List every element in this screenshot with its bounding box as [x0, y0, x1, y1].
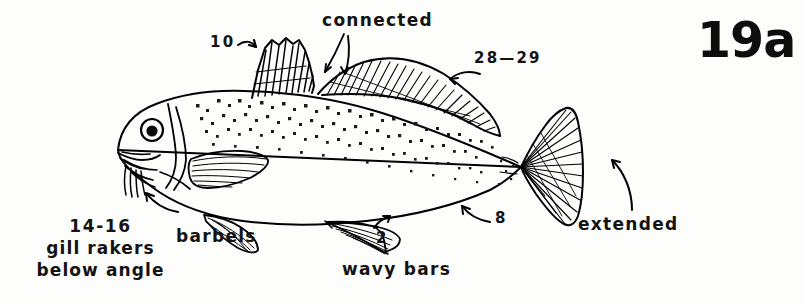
arrow-connected-to-junction — [325, 34, 349, 74]
arrow-10-to-first-dorsal — [238, 40, 256, 47]
caudal-fin — [521, 108, 583, 225]
body-speckle-wavy-bars — [196, 99, 514, 185]
figure-19a-container: connected 10 28—29 8 extended 2 wavy bar… — [0, 0, 806, 305]
label-anal-ray-count: 8 — [495, 211, 506, 227]
gill-raker-text-line-3: below angle — [28, 262, 173, 280]
label-connected: connected — [322, 12, 433, 30]
gill-cover-line — [166, 104, 186, 190]
figure-number: 19a — [697, 12, 795, 69]
arrow-2829-to-second-dorsal — [450, 72, 480, 84]
arrow-extended-to-caudal — [612, 160, 632, 210]
anal-fin — [325, 221, 400, 254]
label-first-dorsal-spine-count: 10 — [210, 35, 235, 51]
label-wavy-bars: wavy bars — [342, 261, 451, 279]
first-dorsal-fin — [252, 38, 314, 98]
label-extended: extended — [578, 216, 679, 234]
arrow-gillrakers-to-gillcover — [146, 193, 178, 212]
label-gill-rakers: 14-16 gill rakers below angle — [28, 218, 173, 284]
gill-raker-count: 14-16 — [28, 218, 173, 236]
arrow-2-to-anal-spines — [374, 216, 390, 228]
gill-raker-text-line-2: gill rakers — [28, 240, 173, 258]
eye — [141, 119, 163, 141]
fish-body-outline — [118, 91, 521, 225]
label-barbels: barbels — [176, 228, 257, 246]
chin-barbels — [125, 166, 146, 197]
label-second-dorsal-ray-count: 28—29 — [474, 51, 542, 67]
arrow-8-to-anal-fin — [462, 206, 490, 222]
label-anal-spine-count: 2 — [376, 231, 387, 247]
